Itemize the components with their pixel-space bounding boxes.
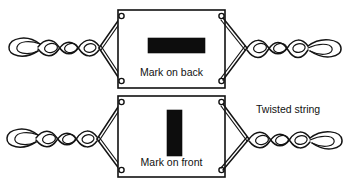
label-mark-on-front: Mark on front xyxy=(141,156,203,168)
eyelet-top-left xyxy=(119,13,124,18)
mark-bar-vertical xyxy=(167,110,182,156)
lower-left-twisted-string xyxy=(7,104,122,170)
upper-right-twisted-string xyxy=(221,18,341,80)
mark-bar-horizontal xyxy=(148,38,205,53)
label-mark-on-back: Mark on back xyxy=(140,66,204,78)
twisted-string-diagram: Mark on back xyxy=(0,0,350,187)
upper-left-twisted-string xyxy=(9,18,122,80)
label-twisted-string: Twisted string xyxy=(256,103,320,115)
figure-canvas: Mark on back xyxy=(0,0,350,187)
panel-lower: Mark on front Twisted string xyxy=(7,96,342,177)
panel-upper: Mark on back xyxy=(9,10,341,88)
eyelet-lower-bottom-left xyxy=(119,167,124,172)
eyelet-bottom-left xyxy=(119,78,124,83)
eyelet-lower-top-left xyxy=(119,99,124,104)
